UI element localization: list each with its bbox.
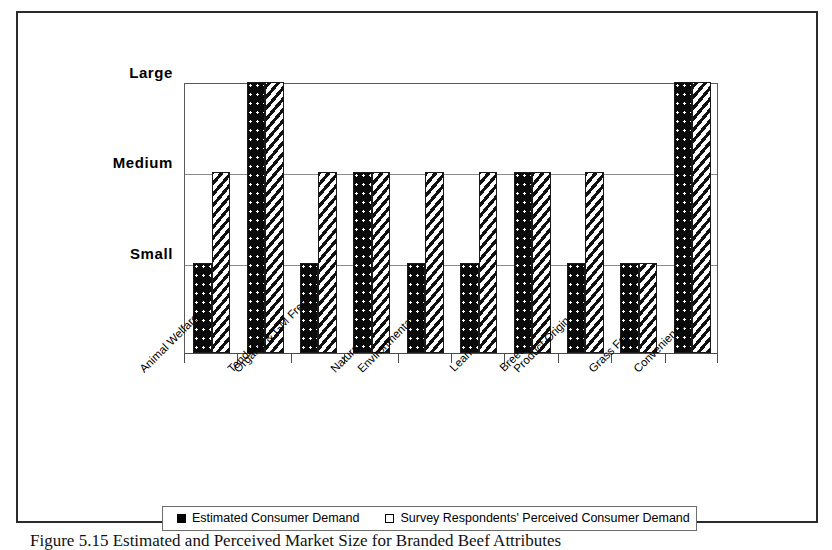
legend-swatch-series-a-icon (177, 514, 186, 523)
bar (265, 82, 283, 353)
bar (514, 172, 532, 353)
bar (318, 172, 336, 353)
bar-group (345, 84, 398, 353)
bar (674, 82, 692, 353)
bar (692, 82, 710, 353)
bar-group (505, 84, 558, 353)
bar (479, 172, 497, 353)
bar (639, 263, 657, 353)
bar-group (612, 84, 665, 353)
bar (353, 172, 371, 353)
bar-group (666, 84, 719, 353)
y-axis-label-small: Small (130, 246, 173, 261)
bar (247, 82, 265, 353)
plot-area (184, 83, 718, 354)
chart-legend: Estimated Consumer Demand Survey Respond… (162, 506, 697, 531)
bar (425, 172, 443, 353)
bar-group (452, 84, 505, 353)
y-axis-label-large: Large (129, 65, 173, 80)
figure-caption: Figure 5.15 Estimated and Perceived Mark… (30, 531, 820, 550)
bars-layer (185, 84, 717, 353)
legend-entry-estimated-consumer-demand: Estimated Consumer Demand (177, 512, 359, 525)
bar (407, 263, 425, 353)
legend-swatch-series-b-icon (385, 514, 394, 523)
bar (372, 172, 390, 353)
bar (532, 172, 550, 353)
bar (212, 172, 230, 353)
bar (193, 263, 211, 353)
legend-label-series-b: Survey Respondents' Perceived Consumer D… (400, 512, 689, 525)
bar (585, 172, 603, 353)
bar-group (399, 84, 452, 353)
bar (567, 263, 585, 353)
legend-label-series-a: Estimated Consumer Demand (192, 512, 359, 525)
figure-frame: SmallMediumLarge Animal WelfareTenderOrg… (16, 11, 818, 523)
y-axis-label-medium: Medium (113, 155, 173, 170)
bar (460, 263, 478, 353)
bar-group (559, 84, 612, 353)
x-axis-labels: Animal WelfareTenderOrganic & GM FreeNat… (18, 354, 832, 474)
legend-entry-survey-respondents-perceived-consumer-demand: Survey Respondents' Perceived Consumer D… (385, 512, 689, 525)
